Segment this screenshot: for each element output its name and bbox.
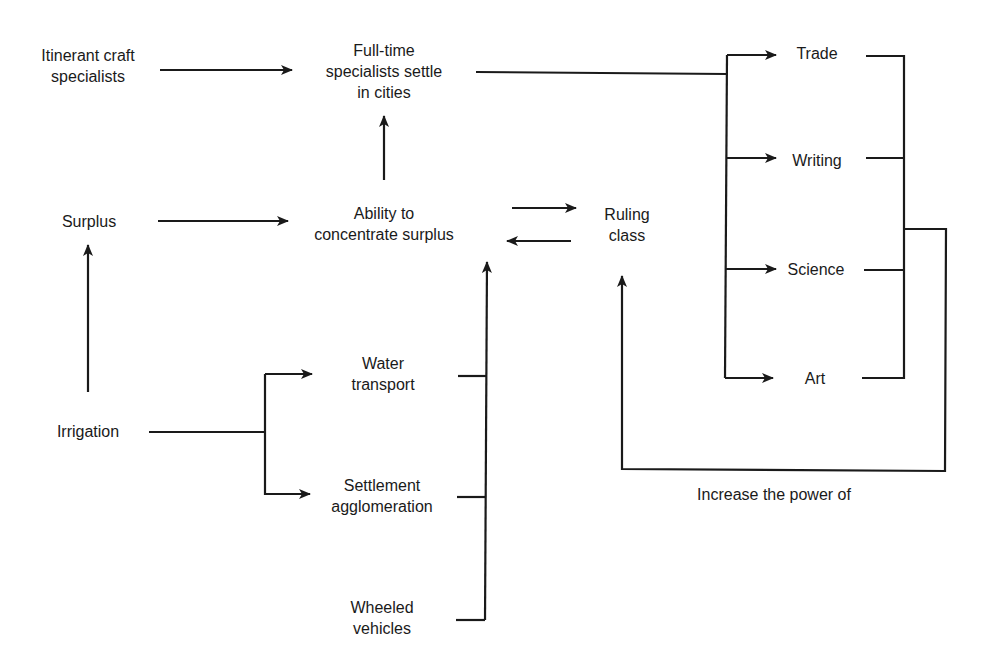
node-line: vehicles (350, 618, 413, 639)
node-line: Itinerant craft (41, 45, 134, 66)
node-line: Science (788, 259, 845, 280)
node-trade: Trade (796, 43, 837, 64)
node-line: Trade (796, 43, 837, 64)
diagram-connectors (0, 0, 991, 671)
node-writing: Writing (792, 150, 842, 171)
feedback-label: Increase the power of (697, 484, 851, 505)
line-fulltime-to-branch (476, 72, 727, 74)
node-irrigation: Irrigation (57, 421, 119, 442)
node-line: Full-time (326, 40, 443, 61)
node-line: Art (805, 368, 825, 389)
node-line: Wheeled (350, 597, 413, 618)
arrow-to-ability-up (485, 262, 487, 620)
node-ability-to-concentrate-surplus: Ability to concentrate surplus (314, 203, 454, 245)
node-fulltime-specialists: Full-time specialists settle in cities (326, 40, 443, 103)
node-water-transport: Water transport (351, 353, 414, 395)
node-line: Settlement (331, 475, 432, 496)
node-line: Surplus (62, 211, 116, 232)
node-art: Art (805, 368, 825, 389)
node-line: class (604, 225, 649, 246)
node-line: specialists (41, 66, 134, 87)
node-science: Science (788, 259, 845, 280)
node-ruling-class: Ruling class (604, 204, 649, 246)
line-feedback-loop (622, 229, 946, 471)
node-line: specialists settle (326, 61, 443, 82)
node-wheeled-vehicles: Wheeled vehicles (350, 597, 413, 639)
node-line: Irrigation (57, 421, 119, 442)
node-itinerant-craft-specialists: Itinerant craft specialists (41, 45, 134, 87)
node-line: concentrate surplus (314, 224, 454, 245)
node-line: in cities (326, 82, 443, 103)
node-line: agglomeration (331, 496, 432, 517)
node-line: Writing (792, 150, 842, 171)
node-line: Ability to (314, 203, 454, 224)
line-trade-out (862, 56, 904, 378)
feedback-label-text: Increase the power of (697, 484, 851, 505)
node-line: Ruling (604, 204, 649, 225)
node-line: transport (351, 374, 414, 395)
node-surplus: Surplus (62, 211, 116, 232)
branch-spine-left (725, 55, 727, 378)
node-line: Water (351, 353, 414, 374)
node-settlement-agglomeration: Settlement agglomeration (331, 475, 432, 517)
arrow-to-water (265, 374, 310, 494)
